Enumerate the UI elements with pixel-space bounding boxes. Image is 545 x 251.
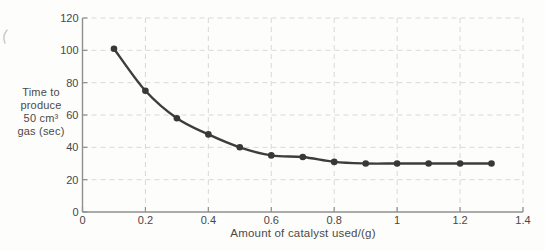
catalyst-reaction-time-chart: Time to produce 50 cm³ gas (sec) 00.20.4… <box>0 0 545 251</box>
y-tick-label: 60 <box>66 109 78 121</box>
x-tick-label: 0.8 <box>327 214 342 226</box>
x-tick-label: 0.6 <box>264 214 279 226</box>
data-point <box>174 115 181 122</box>
data-point <box>111 45 118 52</box>
y-tick-label: 0 <box>72 206 78 218</box>
data-point <box>457 160 464 167</box>
y-tick-label: 120 <box>60 12 78 24</box>
x-tick-label: 1.2 <box>452 214 467 226</box>
y-tick-label: 40 <box>66 141 78 153</box>
x-tick-label: 1 <box>394 214 400 226</box>
data-point <box>300 154 307 161</box>
x-axis-title: Amount of catalyst used/(g) <box>83 227 523 239</box>
data-point <box>362 160 369 167</box>
data-point <box>488 160 495 167</box>
data-point <box>237 144 244 151</box>
data-point <box>425 160 432 167</box>
data-point <box>394 160 401 167</box>
data-point <box>331 159 338 166</box>
y-tick-label: 100 <box>60 44 78 56</box>
data-point <box>142 88 149 95</box>
x-tick-label: 0 <box>79 214 85 226</box>
x-tick-label: 1.4 <box>515 214 530 226</box>
data-series-line <box>114 49 492 164</box>
y-tick-label: 20 <box>66 174 78 186</box>
data-point <box>268 152 275 159</box>
y-tick-label: 80 <box>66 77 78 89</box>
chart-svg: 00.20.40.60.811.21.4020406080100120 <box>0 0 545 251</box>
x-tick-label: 0.2 <box>138 214 153 226</box>
x-tick-label: 0.4 <box>201 214 216 226</box>
data-point <box>205 131 212 138</box>
